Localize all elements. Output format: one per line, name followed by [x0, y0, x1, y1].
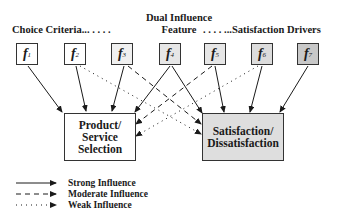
arrow-f6-satisfaction: [250, 66, 262, 112]
arrow-f4-satisfaction: [172, 66, 202, 113]
arrow-f3-product: [112, 66, 124, 111]
arrow-f2-product: [76, 66, 86, 111]
arrow-f1-product: [28, 66, 62, 112]
legend-strong: Strong Influence: [62, 178, 136, 188]
feature-box-f3: f3: [111, 43, 133, 65]
feature-subscript: 6: [263, 51, 267, 59]
feature-box-f6: f6: [251, 43, 273, 65]
arrow-f5-satisfaction: [215, 66, 224, 112]
target-label-line: Selection: [78, 143, 122, 155]
feature-box-f2: f2: [64, 43, 86, 65]
target-label-line: Dissatisfaction: [207, 137, 279, 149]
feature-box-f4: f4: [159, 43, 181, 65]
feature-subscript: 1: [28, 51, 32, 59]
feature-subscript: 5: [216, 51, 220, 59]
feature-box-f1: f1: [16, 43, 38, 65]
arrow-f4-product: [135, 66, 170, 112]
arrow-f7-satisfaction: [280, 66, 308, 112]
legend-weak: Weak Influence: [62, 200, 132, 210]
feature-subscript: 2: [76, 51, 80, 59]
target-label-line: Product/: [78, 119, 122, 131]
feature-subscript: 4: [171, 51, 175, 59]
feature-subscript: 3: [123, 51, 127, 59]
satisfaction-dissatisfaction-box: Satisfaction/ Dissatisfaction: [202, 113, 284, 161]
target-label-line: Satisfaction/: [207, 125, 279, 137]
feature-box-f7: f7: [297, 43, 319, 65]
legend-label-weak: Weak Influence: [68, 200, 132, 210]
legend-label-strong: Strong Influence: [68, 178, 136, 188]
legend-label-moderate: Moderate Influence: [68, 189, 148, 199]
legend-moderate: Moderate Influence: [62, 189, 148, 199]
product-service-selection-box: Product/ Service Selection: [64, 113, 136, 161]
influence-arrows: [0, 0, 338, 223]
feature-subscript: 7: [309, 51, 313, 59]
feature-box-f5: f5: [204, 43, 226, 65]
target-label-line: Service: [78, 131, 122, 143]
